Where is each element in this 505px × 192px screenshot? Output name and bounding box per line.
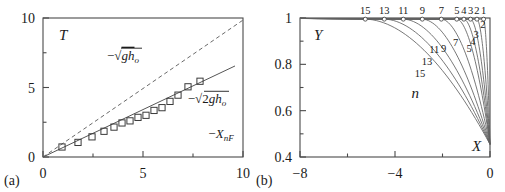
curve-n-3 (300, 18, 490, 144)
panel-a: 05100510T(a)−√gho−√2gho−XnF (0, 0, 252, 192)
data-point-square (159, 105, 165, 111)
figure-container: 05100510T(a)−√gho−√2gho−XnF −8−400.40.60… (0, 0, 505, 192)
annotation-x-nf: −XnF (208, 126, 234, 143)
curve-marker-n-7 (439, 17, 443, 21)
curve-n-2 (300, 18, 490, 144)
top-curve-label-n-11: 11 (398, 5, 408, 16)
curve-marker-n-4 (462, 17, 466, 21)
inner-curve-label-n-15: 15 (415, 68, 426, 79)
panel-a-plot: 05100510T(a)−√gho−√2gho−XnF (0, 0, 252, 192)
curve-family-n (300, 18, 490, 144)
panel-a-caption: (a) (4, 173, 20, 189)
line-sqrt-2gh0 (43, 66, 235, 157)
data-point-square (167, 98, 173, 104)
top-curve-label-n-13: 13 (379, 5, 390, 16)
annotation-sqrt-2gh0-text: −√2gho (188, 91, 227, 108)
curve-n-15 (300, 18, 490, 144)
curve-n-5 (300, 18, 490, 144)
curve-n-1 (300, 18, 490, 144)
inner-curve-label-n-9: 9 (441, 43, 446, 54)
curve-marker-n-15 (363, 17, 367, 21)
panel-b-frame (300, 18, 490, 157)
curve-n-13 (300, 18, 490, 144)
panel-a-axis-label-T: T (59, 27, 69, 43)
curve-marker-n-11 (401, 17, 405, 21)
top-curve-label-n-15: 15 (360, 5, 371, 16)
data-markers-xnf (59, 78, 203, 150)
data-point-square (127, 118, 133, 124)
x-tick-label: 0 (487, 166, 494, 181)
data-point-square (143, 112, 149, 118)
inner-curve-label-n-13: 13 (422, 56, 433, 67)
curve-n-4 (300, 18, 490, 144)
y-tick-label: 0 (28, 150, 35, 165)
x-tick-label: −8 (293, 166, 308, 181)
top-curve-label-n-4: 4 (461, 5, 467, 16)
top-curve-label-n-9: 9 (420, 5, 425, 16)
curve-marker-n-13 (382, 17, 386, 21)
x-tick-label: 5 (140, 166, 147, 181)
curve-marker-n-3 (469, 17, 473, 21)
family-parameter-label-n: n (411, 85, 419, 101)
x-tick-label: −4 (388, 166, 403, 181)
panel-b: −8−400.40.60.81YX(b)15131197543212345791… (252, 0, 505, 192)
inner-curve-label-n-2: 2 (480, 19, 485, 30)
y-tick-label: 0.6 (275, 104, 293, 119)
panel-b-plot: −8−400.40.60.81YX(b)15131197543212345791… (252, 0, 505, 192)
data-point-square (151, 107, 157, 113)
annotation-sqrt-2gh0: −√2gho (188, 91, 229, 108)
panel-b-axis-label-Y: Y (314, 27, 324, 43)
x-tick-label: 0 (40, 166, 47, 181)
y-tick-label: 5 (28, 81, 35, 96)
curve-n-11 (300, 18, 490, 144)
panel-b-caption: (b) (256, 173, 273, 189)
panel-b-axis-label-X: X (471, 138, 482, 154)
top-curve-label-n-5: 5 (454, 5, 459, 16)
top-curve-label-n-1: 1 (481, 5, 486, 16)
inner-curve-label-n-7: 7 (453, 37, 458, 48)
y-tick-label: 0.8 (275, 57, 293, 72)
top-curve-label-n-2: 2 (474, 5, 479, 16)
annotation-sqrt-gh0-text: −√gho (107, 48, 139, 65)
curve-marker-n-9 (420, 17, 424, 21)
inner-curve-label-n-11: 11 (429, 44, 439, 55)
top-curve-label-n-7: 7 (439, 5, 444, 16)
top-curve-label-n-3: 3 (468, 5, 473, 16)
y-tick-label: 1 (285, 11, 292, 26)
y-tick-label: 0.4 (275, 150, 293, 165)
x-tick-label: 10 (236, 166, 250, 181)
curve-n-7 (300, 18, 490, 144)
data-point-square (111, 124, 117, 130)
curve-marker-n-2 (475, 17, 479, 21)
inner-curve-label-n-5: 5 (466, 43, 471, 54)
annotation-sqrt-gh0: −√gho (107, 48, 142, 65)
curve-marker-n-5 (455, 17, 459, 21)
data-point-square (135, 114, 141, 120)
y-tick-label: 10 (21, 11, 35, 26)
curve-n-9 (300, 18, 490, 144)
